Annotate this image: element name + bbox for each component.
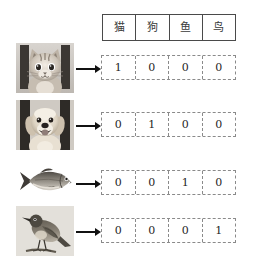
encoding-row: 0 0 0 1: [0, 206, 254, 259]
encoding-row: 1 0 0 0: [0, 43, 254, 97]
bird-photo: [16, 206, 74, 256]
encoding-row: 0 1 0 0: [0, 100, 254, 154]
vector-cell: 0: [136, 56, 170, 79]
vector-cell: 0: [136, 219, 170, 242]
arrow-right-icon: [76, 65, 102, 73]
vector-cell: 1: [102, 56, 136, 79]
vector-cell: 0: [102, 171, 136, 194]
vector-cell: 0: [169, 219, 203, 242]
arrow-right-icon: [76, 122, 102, 130]
vector-cell: 0: [102, 219, 136, 242]
vector-cell: 0: [203, 113, 236, 136]
cat-photo: [16, 43, 74, 93]
one-hot-vector-fish: 0 0 1 0: [101, 170, 236, 195]
category-header-cell-bird: 鸟: [203, 15, 235, 40]
vector-cell: 0: [169, 56, 203, 79]
one-hot-vector-bird: 0 0 0 1: [101, 218, 236, 243]
category-header-cell-fish: 鱼: [170, 15, 203, 40]
encoding-row: 0 0 1 0: [0, 158, 254, 212]
vector-cell: 1: [203, 219, 236, 242]
vector-cell: 0: [169, 113, 203, 136]
one-hot-encoding-diagram: 猫 狗 鱼 鸟: [0, 0, 254, 259]
vector-cell: 0: [102, 113, 136, 136]
vector-cell: 1: [136, 113, 170, 136]
arrow-right-icon: [76, 180, 102, 188]
one-hot-vector-dog: 0 1 0 0: [101, 112, 236, 137]
vector-cell: 1: [169, 171, 203, 194]
vector-cell: 0: [136, 171, 170, 194]
one-hot-vector-cat: 1 0 0 0: [101, 55, 236, 80]
category-header-cell-cat: 猫: [103, 15, 136, 40]
arrow-right-icon: [76, 228, 102, 236]
fish-photo: [16, 158, 74, 208]
vector-cell: 0: [203, 171, 236, 194]
category-header-table: 猫 狗 鱼 鸟: [102, 14, 236, 41]
dog-photo: [16, 100, 74, 150]
category-header-cell-dog: 狗: [136, 15, 169, 40]
vector-cell: 0: [203, 56, 236, 79]
